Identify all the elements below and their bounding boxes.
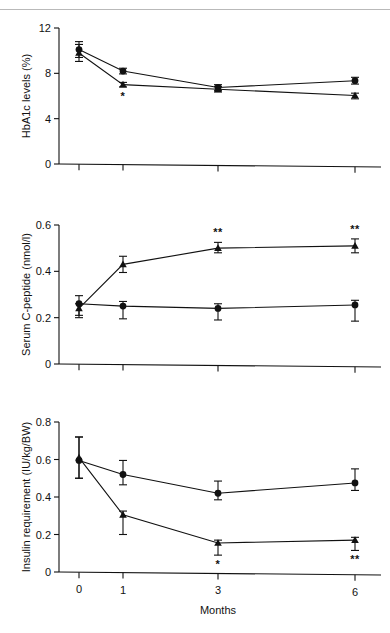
marker-triangle (75, 454, 83, 461)
datapoint-triangle-series-1 (119, 511, 127, 534)
y-tick-label-0: 0 (45, 158, 51, 170)
marker-circle (120, 471, 127, 478)
datapoint-triangle-series-1 (119, 81, 127, 88)
datapoint-circle-series-6 (351, 77, 359, 84)
marker-circle (352, 302, 359, 309)
datapoint-circle-series-3 (214, 481, 222, 500)
datapoint-circle-series-1 (119, 301, 127, 318)
x-axis-line (59, 572, 381, 575)
marker-circle (215, 490, 222, 497)
significance-marker: ** (350, 553, 360, 565)
marker-circle (120, 303, 127, 310)
x-axis-line (59, 364, 381, 367)
y-tick-label-0: 0 (45, 566, 51, 578)
y-tick-label-0.8: 0.8 (36, 416, 51, 428)
marker-circle (352, 480, 359, 487)
x-axis-line (59, 164, 381, 167)
chart-c-peptide: 00.20.40.6Serum C-peptide (nmol/l)**** (0, 200, 390, 400)
series-line-circle-series (79, 460, 355, 493)
y-tick-label-0.4: 0.4 (36, 491, 51, 503)
marker-circle (352, 77, 359, 84)
x-tick-label-1: 1 (120, 584, 126, 596)
y-axis-title-hba1c: HbA1c levels (%) (20, 54, 32, 138)
y-tick-label-0: 0 (45, 358, 51, 370)
significance-marker: ** (350, 223, 360, 235)
significance-marker: ** (213, 226, 223, 238)
datapoint-triangle-series-0 (75, 44, 83, 61)
datapoint-triangle-series-6 (351, 536, 359, 550)
y-axis-title-c-peptide: Serum C-peptide (nmol/l) (20, 233, 32, 356)
datapoint-circle-series-6 (351, 469, 359, 491)
y-tick-label-0.4: 0.4 (36, 265, 51, 277)
y-tick-label-4: 4 (45, 113, 51, 125)
panel-c-peptide: 00.20.40.6Serum C-peptide (nmol/l)**** (0, 200, 390, 400)
series-line-triangle-series (79, 246, 355, 309)
datapoint-circle-series-1 (119, 68, 127, 75)
y-tick-label-8: 8 (45, 67, 51, 79)
y-tick-label-0.6: 0.6 (36, 219, 51, 231)
figure-container: 04812HbA1c levels (%)* 00.20.40.6Serum C… (0, 0, 390, 633)
chart-hba1c: 04812HbA1c levels (%)* (0, 0, 390, 200)
datapoint-circle-series-3 (214, 304, 222, 320)
y-tick-label-0.6: 0.6 (36, 454, 51, 466)
chart-insulin: 00.20.40.60.8Insulin requirement (IU/kg/… (0, 400, 390, 633)
datapoint-circle-series-1 (119, 460, 127, 484)
y-tick-label-0.2: 0.2 (36, 529, 51, 541)
x-tick-label-0: 0 (76, 583, 82, 595)
y-axis-title-insulin: Insulin requirement (IU/kg/BW) (20, 422, 32, 572)
x-tick-label-3: 3 (215, 584, 221, 596)
marker-circle (120, 68, 127, 75)
panel-hba1c: 04812HbA1c levels (%)* (0, 0, 390, 200)
datapoint-circle-series-6 (351, 300, 359, 321)
x-tick-label-6: 6 (352, 586, 358, 598)
panel-insulin: 00.20.40.60.8Insulin requirement (IU/kg/… (0, 400, 390, 633)
y-tick-label-12: 12 (39, 22, 51, 34)
marker-circle (215, 305, 222, 312)
datapoint-triangle-series-0 (75, 437, 83, 478)
significance-marker: * (216, 558, 221, 570)
significance-marker: * (121, 90, 126, 102)
x-axis-title: Months (200, 604, 237, 616)
y-tick-label-0.2: 0.2 (36, 312, 51, 324)
